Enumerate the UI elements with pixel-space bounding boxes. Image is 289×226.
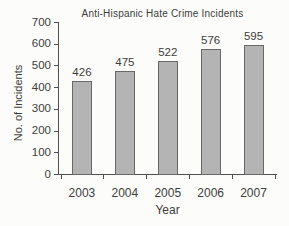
bar xyxy=(158,61,178,175)
y-tick xyxy=(54,22,58,23)
y-tick-label: 700 xyxy=(21,16,51,29)
x-tick xyxy=(146,175,147,179)
y-tick-label: 400 xyxy=(21,81,51,94)
x-tick xyxy=(275,175,276,179)
y-tick xyxy=(54,44,58,45)
bar-value-label: 475 xyxy=(105,56,145,69)
chart-title: Anti-Hispanic Hate Crime Incidents xyxy=(40,8,285,19)
bar xyxy=(201,49,221,175)
y-axis-line xyxy=(58,22,59,175)
y-tick-label: 0 xyxy=(21,168,51,181)
bar-value-label: 595 xyxy=(234,30,274,43)
y-tick xyxy=(54,109,58,110)
bar xyxy=(72,81,92,175)
y-tick xyxy=(54,65,58,66)
x-tick-label: 2005 xyxy=(146,186,190,200)
bar xyxy=(115,71,135,175)
x-tick xyxy=(103,175,104,179)
x-tick-label: 2007 xyxy=(232,186,276,200)
y-tick-label: 600 xyxy=(21,37,51,50)
x-axis-title: Year xyxy=(58,203,277,217)
y-tick-label: 100 xyxy=(21,146,51,159)
x-tick-label: 2003 xyxy=(60,186,104,200)
y-tick xyxy=(54,131,58,132)
y-tick-label: 300 xyxy=(21,102,51,115)
bar-value-label: 576 xyxy=(191,34,231,47)
y-tick-label: 200 xyxy=(21,124,51,137)
y-tick xyxy=(54,87,58,88)
y-tick xyxy=(54,174,58,175)
bar xyxy=(244,45,264,175)
x-tick xyxy=(189,175,190,179)
bar-value-label: 522 xyxy=(148,46,188,59)
bar-value-label: 426 xyxy=(62,66,102,79)
bar-chart-figure: Anti-Hispanic Hate Crime Incidents No. o… xyxy=(0,0,289,226)
x-tick-label: 2004 xyxy=(103,186,147,200)
x-tick-label: 2006 xyxy=(189,186,233,200)
y-tick-label: 500 xyxy=(21,59,51,72)
x-tick xyxy=(61,175,62,179)
x-tick xyxy=(232,175,233,179)
y-tick xyxy=(54,152,58,153)
